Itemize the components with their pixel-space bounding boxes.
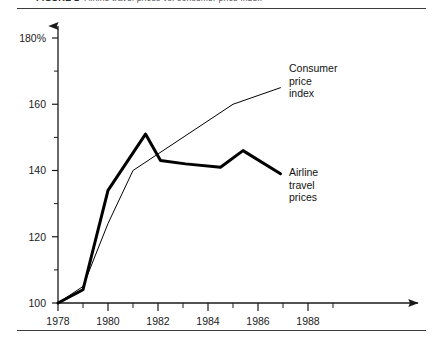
y-axis-label-100: 100 (6, 297, 46, 309)
x-axis-label-1988: 1988 (288, 315, 328, 327)
x-axis (58, 303, 418, 311)
y-axis-label-140: 140 (6, 164, 46, 176)
airline-label-line-2: travel (289, 179, 318, 192)
figure-root: FIGURE 1 Airline travel prices vs. consu… (0, 0, 441, 340)
y-axis-label-160: 160 (6, 98, 46, 110)
x-axis-label-1980: 1980 (88, 315, 128, 327)
airline-label-line-1: Airline (289, 166, 318, 179)
y-axis-label-180: 180% (6, 32, 46, 44)
y-axis (52, 26, 58, 303)
series-annotation-consumer-price-index: Consumer price index (289, 62, 337, 100)
series-line-consumer-price-index (58, 88, 281, 303)
airline-label-line-3: prices (289, 191, 318, 204)
x-axis-label-1982: 1982 (138, 315, 178, 327)
series-line-airline-travel-prices (58, 134, 281, 303)
cpi-label-line-3: index (289, 87, 337, 100)
x-axis-label-1984: 1984 (188, 315, 228, 327)
series-annotation-airline-travel-prices: Airline travel prices (289, 166, 318, 204)
cpi-label-line-2: price (289, 75, 337, 88)
cpi-label-line-1: Consumer (289, 62, 337, 75)
x-axis-label-1986: 1986 (238, 315, 278, 327)
chart-plot-area (0, 0, 441, 340)
y-axis-label-120: 120 (6, 231, 46, 243)
x-axis-label-1978: 1978 (38, 315, 78, 327)
